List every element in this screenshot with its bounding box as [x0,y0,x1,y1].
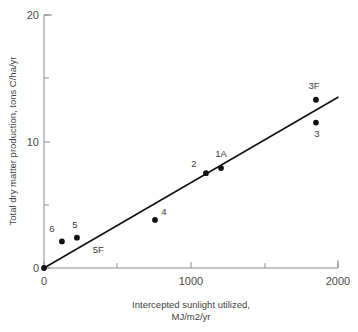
data-points-layer: 65421A3F3 [41,80,320,271]
data-point-3F [313,97,319,103]
y-tick-label-10: 10 [27,136,39,148]
x-axis-title-line1: Intercepted sunlight utilized, [132,299,250,310]
data-point-origin [41,265,47,271]
axis-frame [44,15,338,268]
data-point-4 [152,217,158,223]
x-axis-title-line2: MJ/m2/yr [171,311,210,322]
data-point-label-5: 5 [72,219,77,230]
x-tick-label-2000: 2000 [326,275,350,287]
y-axis-title: Total dry matter production, tons C/ha/y… [7,57,18,226]
plot-area: 0 10 20 0 1000 2000 Total dry matter pro… [0,0,358,332]
data-point-label-4: 4 [161,206,166,217]
data-point-label-1A: 1A [215,148,227,159]
data-point-label-5F: 5F [93,244,104,255]
data-point-3 [313,120,319,126]
x-tick-label-0: 0 [41,275,47,287]
data-point-2 [203,170,209,176]
y-tick-label-20: 20 [27,9,39,21]
data-point-6 [59,239,65,245]
data-point-1A [218,165,224,171]
data-point-label-3F: 3F [308,80,319,91]
x-tick-label-1000: 1000 [179,275,203,287]
data-point-label-6: 6 [49,223,54,234]
data-point-label-3: 3 [314,128,319,139]
scatter-chart: 0 10 20 0 1000 2000 Total dry matter pro… [0,0,358,332]
extra-labels-layer: 5F [93,244,104,255]
y-tick-label-0: 0 [33,262,39,274]
data-point-5 [74,235,80,241]
regression-line [44,97,338,268]
data-point-label-2: 2 [191,158,196,169]
